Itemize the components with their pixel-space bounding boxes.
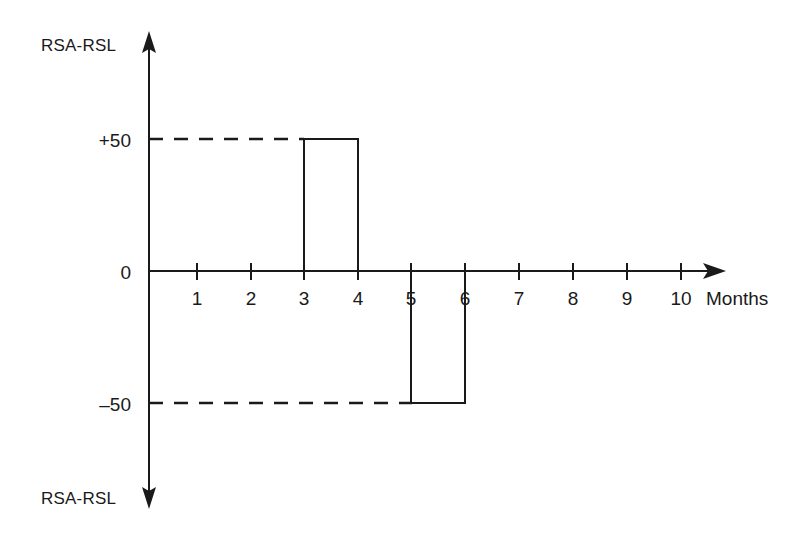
bar-positive-month-3-to-4	[304, 139, 358, 271]
x-label-2: 2	[246, 288, 257, 309]
x-label-4: 4	[353, 288, 364, 309]
x-label-6: 6	[460, 288, 471, 309]
x-label-9: 9	[622, 288, 633, 309]
y-label-minus-50: ‒50	[99, 394, 131, 415]
y-label-plus-50: +50	[99, 130, 131, 151]
x-label-7: 7	[514, 288, 525, 309]
bar-negative-outline	[411, 271, 465, 403]
bar-positive-outline	[304, 139, 358, 271]
vertical-axis-bottom-label: RSA-RSL	[41, 489, 116, 508]
x-label-10: 10	[670, 288, 691, 309]
x-axis-unit-label: Months	[706, 288, 768, 309]
x-label-8: 8	[568, 288, 579, 309]
vertical-axis-top-label: RSA-RSL	[41, 36, 116, 55]
chart-canvas: +50 0 ‒50 1 2 3 4 5 6 7 8 9 10 Months RS…	[0, 0, 808, 537]
horizontal-axis-group	[149, 263, 726, 279]
x-label-3: 3	[299, 288, 310, 309]
chart-container: +50 0 ‒50 1 2 3 4 5 6 7 8 9 10 Months RS…	[0, 0, 808, 537]
y-label-zero: 0	[120, 262, 131, 283]
x-label-5: 5	[406, 288, 417, 309]
bar-negative-month-5-to-6	[411, 271, 465, 403]
x-label-1: 1	[192, 288, 203, 309]
